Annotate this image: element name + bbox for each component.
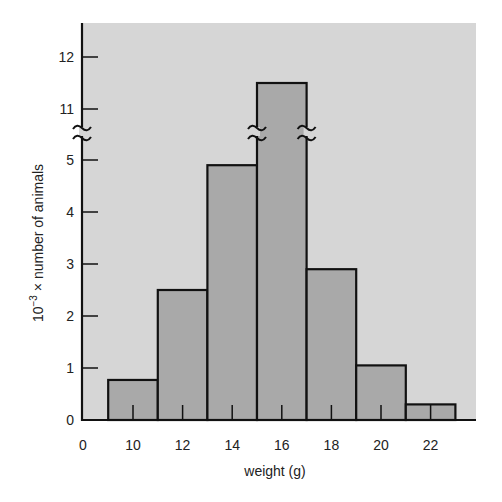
- y-tick-label: 4: [66, 204, 74, 220]
- x-axis-title: weight (g): [243, 463, 305, 479]
- histogram-bar: [158, 290, 208, 420]
- x-tick-label: 18: [324, 437, 340, 453]
- y-tick-label: 12: [58, 49, 74, 65]
- y-tick-label: 0: [66, 412, 74, 428]
- y-tick-label: 5: [66, 152, 74, 168]
- histogram-bar: [207, 165, 257, 420]
- x-tick-label: 22: [423, 437, 439, 453]
- x-tick-label: 14: [224, 437, 240, 453]
- y-tick-label: 2: [66, 308, 74, 324]
- y-axis-title: 10−3 × number of animals: [28, 164, 46, 322]
- x-tick-label: 12: [175, 437, 191, 453]
- x-tick-label: 16: [274, 437, 290, 453]
- y-tick-label: 3: [66, 256, 74, 272]
- histogram-bar: [307, 269, 357, 420]
- histogram-chart: 0123451112010121416182022weight (g)10−3 …: [0, 0, 502, 502]
- x-tick-label: 0: [79, 437, 87, 453]
- x-tick-label: 20: [373, 437, 389, 453]
- y-tick-label: 11: [59, 101, 74, 117]
- x-tick-label: 10: [125, 437, 141, 453]
- histogram-bar: [257, 83, 307, 420]
- y-tick-label: 1: [66, 360, 74, 376]
